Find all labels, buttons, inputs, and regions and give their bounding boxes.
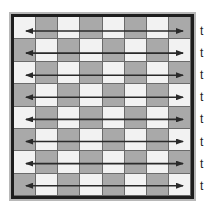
row-label: t bbox=[200, 91, 203, 103]
row-label: t bbox=[200, 69, 203, 81]
row-label: t bbox=[200, 113, 203, 125]
row-label: t bbox=[200, 180, 203, 192]
row-label: t bbox=[200, 136, 203, 148]
arrows-layer bbox=[0, 0, 210, 213]
row-label: t bbox=[200, 47, 203, 59]
row-label: t bbox=[200, 25, 203, 37]
row-label: t bbox=[200, 158, 203, 170]
